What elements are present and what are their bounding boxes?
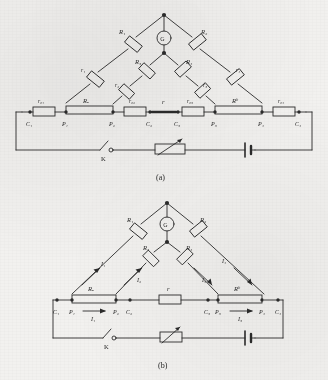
label-R3-b: R₃ bbox=[142, 244, 149, 251]
label-RA-b: Rₐ bbox=[87, 285, 94, 292]
label-P4: P₄ bbox=[257, 121, 264, 127]
wire-apex-right-b2 bbox=[201, 236, 264, 294]
resistor-RB-body bbox=[215, 106, 262, 114]
label-I1: I₁ bbox=[100, 261, 105, 267]
label-P1-b: P₁ bbox=[68, 309, 75, 315]
resistor-RA-body-b bbox=[72, 295, 116, 303]
label-I3-rail: I₃ bbox=[237, 316, 242, 322]
wire-node-left-2 bbox=[130, 76, 142, 86]
node-inner-b bbox=[165, 240, 169, 244]
label-R2-b: R₂ bbox=[199, 216, 207, 223]
switch-contact-right-b bbox=[112, 336, 116, 340]
label-R4: R₄ bbox=[185, 58, 193, 65]
rheostat-body bbox=[155, 144, 185, 154]
label-C1-b: C₁ bbox=[53, 309, 59, 315]
switch-blade bbox=[100, 141, 108, 150]
rheostat-body-b bbox=[160, 332, 182, 342]
node-P3 bbox=[213, 110, 216, 113]
label-P3-b: P₃ bbox=[214, 309, 221, 315]
node-P2 bbox=[111, 110, 114, 113]
label-I1-rail: I₁ bbox=[90, 316, 95, 322]
wire-apex-right-1 bbox=[164, 15, 192, 37]
node-P1 bbox=[64, 110, 67, 113]
wire-node-left-b1 bbox=[154, 242, 167, 252]
node-C1 bbox=[28, 110, 31, 113]
node-C4 bbox=[297, 110, 300, 113]
wire-apex-right-2 bbox=[200, 49, 230, 72]
node-C4-b bbox=[276, 298, 279, 301]
label-I2: I₂ bbox=[136, 277, 141, 283]
wire-apex-left-1 bbox=[136, 15, 164, 37]
label-r03: r₀₃ bbox=[187, 98, 193, 104]
label-r4: r₄ bbox=[236, 67, 240, 73]
node-inner bbox=[162, 51, 166, 55]
label-r01: r₀₁ bbox=[38, 98, 44, 104]
switch-contact-right bbox=[109, 148, 113, 152]
galvanometer-label-b: G bbox=[163, 222, 168, 228]
node-C2 bbox=[148, 110, 151, 113]
label-I3: I₃ bbox=[201, 277, 206, 283]
label-C1: C₁ bbox=[26, 121, 32, 127]
label-C3-b: C₃ bbox=[204, 309, 210, 315]
node-C3-b bbox=[206, 298, 209, 301]
resistor-r02-body bbox=[124, 107, 146, 116]
label-C3: C₃ bbox=[174, 121, 180, 127]
label-C2-b: C₂ bbox=[126, 309, 132, 315]
label-R3: R₃ bbox=[134, 58, 141, 65]
arrow-I1-rail-head bbox=[100, 309, 106, 314]
label-switch-K: K bbox=[101, 155, 106, 162]
label-r2: r₂ bbox=[115, 82, 119, 88]
node-apex-b bbox=[165, 201, 169, 205]
node-P3-b bbox=[216, 298, 219, 301]
label-R1: R₁ bbox=[118, 28, 125, 35]
caption-a: (a) bbox=[156, 173, 165, 182]
wire-node-left-1 bbox=[150, 53, 164, 65]
arrow-I3-rail-head bbox=[247, 309, 253, 314]
node-C2-b bbox=[128, 298, 131, 301]
wire-node-right-b1 bbox=[167, 242, 180, 252]
resistor-r01-body bbox=[33, 107, 55, 116]
caption-b: (b) bbox=[158, 361, 168, 370]
label-R4-b: R₄ bbox=[185, 244, 193, 251]
wire-apex-left-2 bbox=[98, 49, 128, 72]
label-R1-b: R₁ bbox=[126, 216, 133, 223]
label-RB: Rᵇ bbox=[231, 97, 239, 104]
node-apex bbox=[162, 13, 166, 17]
label-r1: r₁ bbox=[81, 67, 85, 73]
resistor-RB-body-b bbox=[218, 295, 262, 303]
arrow-heads-b bbox=[94, 268, 254, 313]
node-P4 bbox=[260, 110, 263, 113]
wire-node-left-3 bbox=[113, 96, 122, 104]
node-P2-b bbox=[114, 298, 117, 301]
node-C3 bbox=[176, 110, 179, 113]
label-r-unknown: r bbox=[162, 98, 165, 105]
label-r02: r₀₂ bbox=[129, 98, 135, 104]
label-P2: P₂ bbox=[108, 121, 115, 127]
figure-page: G R₁ R₂ R₃ R₄ r₁ r₂ r₃ r₄ r₀₁ r₀₂ r₀₃ r₀… bbox=[0, 0, 328, 380]
diagram-b: G R₁ R₂ R₃ R₄ Rₐ Rᵇ r C₁ P₁ P₂ C₂ C₃ P₃ … bbox=[0, 190, 328, 380]
label-RA: Rₐ bbox=[82, 97, 89, 104]
galvanometer-label: G bbox=[160, 36, 165, 42]
wire-node-right-3 bbox=[206, 96, 215, 104]
resistor-r-body-b bbox=[159, 295, 181, 304]
label-P4-b: P₄ bbox=[258, 309, 265, 315]
label-C4-b: C₄ bbox=[275, 309, 281, 315]
label-C4: C₄ bbox=[295, 121, 301, 127]
node-P4-b bbox=[260, 298, 263, 301]
resistor-r03-body bbox=[182, 107, 204, 116]
resistor-r04-body bbox=[273, 107, 295, 116]
label-I4: I₄ bbox=[221, 258, 226, 264]
rheostat-arrow-head bbox=[177, 139, 182, 143]
wire-apex-right-b1 bbox=[167, 203, 193, 224]
label-P2-b: P₂ bbox=[112, 309, 119, 315]
node-C1-b bbox=[55, 298, 58, 301]
wire-node-right-1 bbox=[164, 53, 178, 65]
label-P1: P₁ bbox=[61, 121, 68, 127]
label-r04: r₀₄ bbox=[278, 98, 284, 104]
diagram-a: G R₁ R₂ R₃ R₄ r₁ r₂ r₃ r₄ r₀₁ r₀₂ r₀₃ r₀… bbox=[0, 0, 328, 190]
label-r3: r₃ bbox=[203, 82, 207, 88]
label-r-unknown-b: r bbox=[167, 285, 170, 292]
label-R2: R₂ bbox=[200, 28, 208, 35]
wire-node-right-2 bbox=[186, 76, 198, 86]
resistor-RA-body bbox=[66, 106, 113, 114]
